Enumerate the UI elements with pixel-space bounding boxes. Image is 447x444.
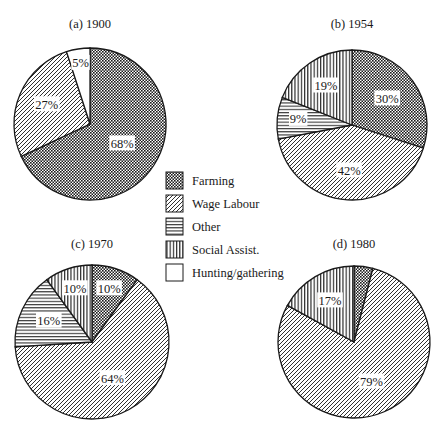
slice-percent-label: 10% [98, 282, 121, 296]
pie-a-title: (a) 1900 [69, 17, 111, 31]
pie-chart-figure: (a) 1900 68%27%5% (b) 1954 30%42%9%19% (… [0, 0, 447, 444]
legend-label: Wage Labour [192, 197, 260, 211]
slice-percent-label: 68% [111, 137, 134, 151]
legend-label: Hunting/gathering [192, 266, 284, 280]
legend-item-hunting-gathering: Hunting/gathering [166, 264, 284, 281]
legend-label: Farming [192, 174, 235, 188]
legend-label: Social Assist. [192, 243, 259, 257]
slice-percent-label: 5% [72, 56, 89, 70]
slice-percent-label: 30% [376, 92, 399, 106]
slice-percent-label: 27% [35, 98, 58, 112]
pie-b-title: (b) 1954 [331, 17, 374, 31]
pie-d-title: (d) 1980 [333, 237, 376, 251]
pie-d-1980: (d) 1980 79%17% [278, 237, 430, 418]
legend-item-other: Other [166, 218, 221, 235]
slice-percent-label: 17% [319, 294, 342, 308]
pie-c-1970: (c) 1970 10%64%16%10% [15, 237, 169, 419]
slice-percent-label: 64% [101, 372, 124, 386]
legend: Farming Wage Labour Other Social Assist.… [166, 172, 284, 281]
pie-a-1900: (a) 1900 68%27%5% [14, 17, 166, 200]
wage-labour-swatch-icon [166, 195, 183, 212]
legend-item-wage-labour: Wage Labour [166, 195, 260, 212]
slice-percent-label: 16% [37, 314, 60, 328]
slice-percent-label: 9% [290, 112, 307, 126]
pie-a-slices [14, 48, 166, 200]
legend-label: Other [192, 220, 221, 234]
slice-percent-label: 10% [63, 282, 86, 296]
hunting-gathering-swatch-icon [166, 264, 183, 281]
legend-item-social-assist: Social Assist. [166, 241, 259, 258]
pie-c-title: (c) 1970 [71, 237, 113, 251]
legend-item-farming: Farming [166, 172, 235, 189]
pie-d-slices [278, 266, 430, 418]
slice-percent-label: 42% [338, 164, 361, 178]
farming-swatch-icon [166, 172, 183, 189]
social-assist-swatch-icon [166, 241, 183, 258]
slice-percent-label: 79% [360, 375, 383, 389]
pie-b-1954: (b) 1954 30%42%9%19% [277, 17, 427, 200]
slice-percent-label: 19% [314, 79, 337, 93]
other-swatch-icon [166, 218, 183, 235]
pie-c-slices [15, 265, 169, 419]
